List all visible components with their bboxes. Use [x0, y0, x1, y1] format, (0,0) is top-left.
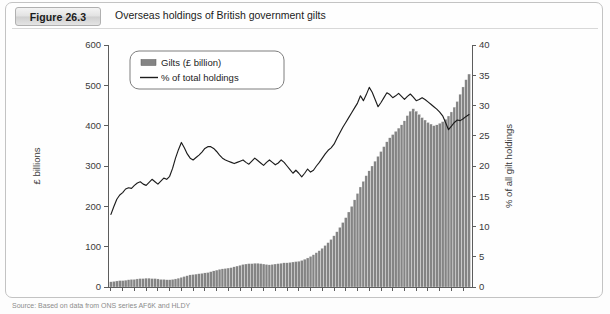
- source-caption: Source: Based on data from ONS series AF…: [12, 302, 572, 312]
- bar: [171, 279, 174, 287]
- y-tick-label-right: 35: [479, 70, 490, 81]
- bar-series: [110, 74, 471, 287]
- bar: [412, 109, 415, 287]
- bar: [415, 111, 418, 287]
- bar: [330, 239, 333, 287]
- bar: [177, 278, 180, 287]
- bar: [253, 263, 256, 287]
- bar: [227, 268, 230, 287]
- bar: [368, 171, 371, 287]
- bar: [438, 123, 441, 287]
- bar: [324, 245, 327, 287]
- bar: [315, 253, 318, 287]
- bar: [174, 279, 177, 287]
- figure-caption-title: Overseas holdings of British government …: [115, 9, 326, 21]
- bar: [183, 277, 186, 287]
- bar: [271, 264, 274, 287]
- bar: [145, 278, 148, 287]
- bar: [292, 262, 295, 287]
- bar: [465, 80, 468, 287]
- bar: [289, 262, 292, 287]
- bar: [115, 281, 118, 287]
- y-tick-label-right: 5: [479, 251, 484, 262]
- y-tick-label-left: 500: [85, 80, 101, 91]
- bar: [268, 265, 271, 287]
- bar: [462, 87, 465, 287]
- bar: [130, 279, 133, 287]
- bar: [221, 269, 224, 287]
- bar: [162, 279, 165, 287]
- y-tick-label-left: 100: [85, 241, 101, 252]
- bar: [338, 227, 341, 287]
- bar: [224, 268, 227, 287]
- bar: [347, 212, 350, 287]
- figure-number-badge: Figure 26.3: [15, 7, 101, 26]
- x-tick-label: 2002: [276, 294, 297, 297]
- figure-panel: Figure 26.3 Overseas holdings of British…: [5, 2, 603, 298]
- y-tick-label-right: 40: [479, 39, 490, 50]
- y-tick-label-left: 200: [85, 201, 101, 212]
- bar: [265, 264, 268, 287]
- bar: [306, 258, 309, 287]
- bar: [409, 111, 412, 287]
- y-axis-label-right: % of all gilt holdings: [503, 124, 514, 208]
- x-tick-label: 2017: [453, 294, 474, 297]
- bar: [344, 218, 347, 287]
- x-tick-label: 1997: [218, 294, 239, 297]
- bar: [274, 264, 277, 287]
- bar: [136, 279, 139, 287]
- y-tick-label-right: 0: [479, 281, 484, 292]
- bar: [377, 156, 380, 287]
- bar: [283, 263, 286, 287]
- y-tick-label-left: 400: [85, 120, 101, 131]
- bar: [256, 263, 259, 287]
- bar: [441, 122, 444, 287]
- bar: [110, 282, 113, 287]
- bar: [309, 256, 312, 287]
- bar: [400, 125, 403, 287]
- bar: [456, 101, 459, 287]
- y-tick-label-left: 300: [85, 160, 101, 171]
- bar: [118, 281, 121, 287]
- bar: [450, 112, 453, 287]
- bar: [300, 260, 303, 287]
- chart-area: 0100200300400500600£ billions05101520253…: [12, 29, 598, 297]
- bar: [189, 275, 192, 287]
- bar: [391, 135, 394, 287]
- x-tick-label: 2012: [394, 294, 415, 297]
- bar: [353, 200, 356, 287]
- bar: [280, 263, 283, 287]
- bar: [242, 264, 245, 287]
- gilts-chart: 0100200300400500600£ billions05101520253…: [12, 29, 598, 297]
- y-tick-label-right: 20: [479, 160, 490, 171]
- bar: [336, 232, 339, 287]
- bar: [333, 236, 336, 287]
- bar: [233, 267, 236, 287]
- bar: [121, 281, 124, 287]
- bar: [165, 280, 168, 287]
- y-tick-label-left: 600: [85, 39, 101, 50]
- bar: [203, 273, 206, 287]
- bar: [365, 176, 368, 287]
- bar: [444, 119, 447, 287]
- bar: [154, 279, 157, 287]
- bar: [341, 222, 344, 287]
- bar: [192, 275, 195, 288]
- x-tick-label: 2007: [335, 294, 356, 297]
- bar: [206, 272, 209, 287]
- bar: [139, 279, 142, 287]
- y-tick-label-right: 25: [479, 130, 490, 141]
- bar: [421, 118, 424, 287]
- bar: [435, 125, 438, 287]
- bar: [427, 122, 430, 287]
- bar: [250, 264, 253, 287]
- bar: [215, 270, 218, 287]
- bar: [239, 265, 242, 287]
- bar: [195, 274, 198, 287]
- bar: [124, 280, 127, 287]
- x-tick-label: 1992: [159, 294, 180, 297]
- bar: [424, 120, 427, 287]
- bar: [394, 131, 397, 287]
- legend-swatch-gilts: [141, 60, 156, 66]
- bar: [385, 142, 388, 287]
